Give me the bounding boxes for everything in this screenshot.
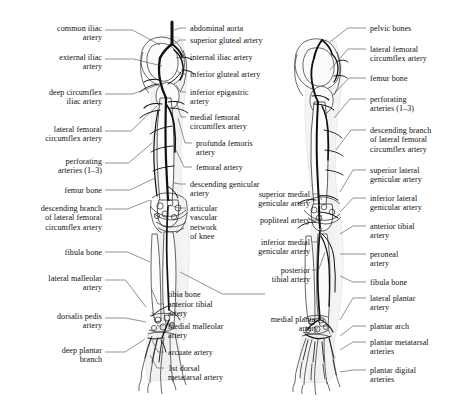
label-perforating-arteries-right[interactable]: perforating arteries (1–3) [370,95,466,114]
label-plantar-digital-arteries[interactable]: plantar digital arteries [370,366,466,385]
label-deep-circumflex-iliac-artery[interactable]: deep circumflex iliac artery [2,88,102,107]
label-inferior-lateral-genicular-artery[interactable]: inferior lateral genicular artery [370,194,466,213]
label-inferior-medial-genicular-artery[interactable]: inferior medial genicular artery [212,238,310,257]
label-arcuate-artery[interactable]: arcuate artery [168,348,264,357]
label-femur-bone-left[interactable]: femur bone [6,186,102,195]
label-medial-femoral-circumflex-artery[interactable]: medial femoral circumflex artery [190,113,300,132]
label-layer: common iliac arteryexternal iliac artery… [0,0,468,405]
label-descending-branch-lateral-femoral-circumflex-left[interactable]: descending branch of lateral femoral cir… [0,204,102,232]
label-inferior-epigastric-artery[interactable]: inferior epigastric artery [190,88,300,107]
label-profunda-femoris-artery[interactable]: profunda femoris artery [196,139,300,158]
label-femur-bone-right[interactable]: femur bone [370,74,466,83]
label-descending-branch-lateral-femoral-circumflex-right[interactable]: descending branch of lateral femoral cir… [370,126,466,154]
label-external-iliac-artery[interactable]: external iliac artery [6,53,102,72]
label-superior-lateral-genicular-artery[interactable]: superior lateral genicular artery [370,166,466,185]
label-internal-iliac-artery[interactable]: internal iliac artery [190,53,300,62]
label-tibia-bone[interactable]: tibia bone [168,290,264,299]
label-1st-dorsal-metatarsal-artery[interactable]: 1st dorsal metatarsal artery [168,364,264,383]
label-fibula-bone-right[interactable]: fibula bone [370,278,466,287]
label-medial-plantar-artery[interactable]: medial plantar artery [232,315,318,334]
label-perforating-arteries-left[interactable]: perforating arteries (1–3) [6,157,102,176]
label-common-iliac-artery[interactable]: common iliac artery [6,24,102,43]
label-abdominal-aorta[interactable]: abdominal aorta [190,24,300,33]
label-plantar-arch[interactable]: plantar arch [370,322,466,331]
label-superior-gluteal-artery[interactable]: superior gluteal artery [190,36,300,45]
label-lateral-femoral-circumflex-artery-left[interactable]: lateral femoral circumflex artery [0,125,102,144]
label-inferior-gluteal-artery[interactable]: inferior gluteal artery [190,70,300,79]
label-superior-medial-genicular-artery[interactable]: superior medial genicular artery [212,190,310,209]
label-lateral-plantar-artery[interactable]: lateral plantar artery [370,294,466,313]
label-lateral-malleolar-artery[interactable]: lateral malleolar artery [2,274,102,293]
label-anterior-tibial-artery-right[interactable]: anterior tibial artery [370,222,466,241]
label-peroneal-artery[interactable]: peroneal artery [370,250,466,269]
label-popliteal-artery[interactable]: popliteal artery [212,216,310,225]
label-pelvic-bones[interactable]: pelvic bones [370,24,466,33]
label-dorsalis-pedis-artery[interactable]: dorsalis pedis artery [6,312,102,331]
label-deep-plantar-branch[interactable]: deep plantar branch [6,346,102,365]
label-femoral-artery[interactable]: femoral artery [196,163,300,172]
label-lateral-femoral-circumflex-artery-right[interactable]: lateral femoral circumflex artery [370,45,466,64]
label-fibula-bone-left[interactable]: fibula bone [6,248,102,257]
label-plantar-metatarsal-arteries[interactable]: plantar metatarsal arteries [370,338,466,357]
label-posterior-tibial-artery[interactable]: posterior tibial artery [212,266,310,285]
anatomical-figure: common iliac arteryexternal iliac artery… [0,0,468,405]
